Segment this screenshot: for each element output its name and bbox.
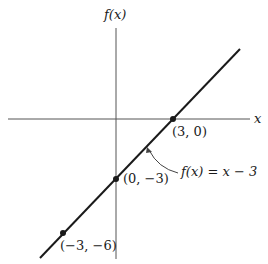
function-label: f(x) = x − 3	[181, 165, 257, 178]
point-label-neg3-neg6: (−3, −6)	[60, 239, 117, 252]
function-line	[40, 49, 240, 258]
label-pointer-arrow	[149, 150, 178, 173]
x-axis-label: x	[254, 112, 261, 125]
y-axis-label: f(x)	[104, 8, 126, 21]
arrowhead-icon	[146, 147, 152, 153]
graph-canvas	[0, 0, 268, 264]
point-neg3-neg6	[60, 230, 66, 236]
point-3-0	[170, 116, 176, 122]
point-0-neg3	[113, 176, 119, 182]
graph-figure: f(x) x (3, 0) (0, −3) (−3, −6) f(x) = x …	[0, 0, 268, 264]
point-label-0-neg3: (0, −3)	[123, 172, 169, 185]
point-label-3-0: (3, 0)	[172, 125, 207, 138]
